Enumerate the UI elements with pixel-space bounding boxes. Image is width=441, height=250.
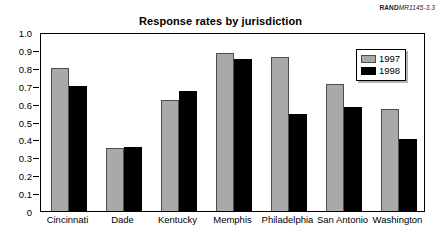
bar-group [96,34,151,211]
source-credit-document-id: MR1145-3.3 [399,4,435,11]
legend-swatch-1998 [361,67,376,75]
bar-group [41,34,96,211]
y-axis-tick-mark [33,87,39,88]
bar-group [206,34,261,211]
legend-item-1997: 1997 [361,53,400,65]
y-axis: 1.00.90.80.70.60.50.40.30.20.10 [0,33,38,212]
legend-item-1998: 1998 [361,65,400,77]
legend-label-1997: 1997 [379,54,400,64]
y-axis-tick-mark [33,123,39,124]
y-axis-tick-label: 1.0 [19,28,32,39]
figure: RANDMR1145-3.3 Response rates by jurisdi… [0,0,441,250]
y-axis-tick-label: 0.1 [19,189,32,200]
bar-1998 [179,91,197,211]
y-axis-tick-label: 0 [27,207,32,218]
bar-1998 [124,147,142,211]
legend: 19971998 [356,49,406,81]
x-axis-tick-label: Cincinnati [47,214,89,225]
y-axis-tick-label: 0.8 [19,63,32,74]
bar-1997 [326,84,344,211]
bar-1998 [234,59,252,211]
y-axis-tick-mark [33,69,39,70]
x-axis-tick-label: Kentucky [158,214,197,225]
y-axis-tick-label: 0.5 [19,117,32,128]
bar-1998 [289,114,307,211]
y-axis-tick-mark [33,140,39,141]
y-axis-tick-label: 0.6 [19,99,32,110]
bar-group [151,34,206,211]
bar-1997 [216,53,234,211]
x-axis-tick-label: San Antonio [317,214,368,225]
x-axis-tick-label: Memphis [213,214,252,225]
x-axis-tick-label: Washington [373,214,423,225]
bar-1997 [51,68,69,211]
bar-1997 [271,57,289,211]
bar-1998 [344,107,362,211]
bar-group [261,34,316,211]
bar-1997 [381,109,399,211]
y-axis-tick-mark [33,194,39,195]
y-axis-tick-label: 0.3 [19,153,32,164]
bar-1998 [69,86,87,211]
y-axis-tick-mark [33,176,39,177]
y-axis-tick-mark [33,51,39,52]
bar-1998 [399,139,417,211]
y-axis-tick-label: 0.7 [19,81,32,92]
x-axis: CincinnatiDadeKentuckyMemphisPhiladelphi… [40,214,425,234]
y-axis-tick-mark [33,105,39,106]
bar-1997 [161,100,179,211]
y-axis-tick-label: 0.2 [19,171,32,182]
source-credit: RANDMR1145-3.3 [380,4,435,11]
x-axis-tick-label: Philadelphia [262,214,314,225]
chart-title: Response rates by jurisdiction [0,15,441,27]
legend-label-1998: 1998 [379,66,400,76]
x-axis-tick-label: Dade [111,214,134,225]
y-axis-tick-mark [33,158,39,159]
y-axis-tick-label: 0.9 [19,45,32,56]
legend-swatch-1997 [361,55,376,63]
bar-1997 [106,148,124,211]
source-credit-org: RAND [380,4,399,11]
y-axis-tick-label: 0.4 [19,135,32,146]
